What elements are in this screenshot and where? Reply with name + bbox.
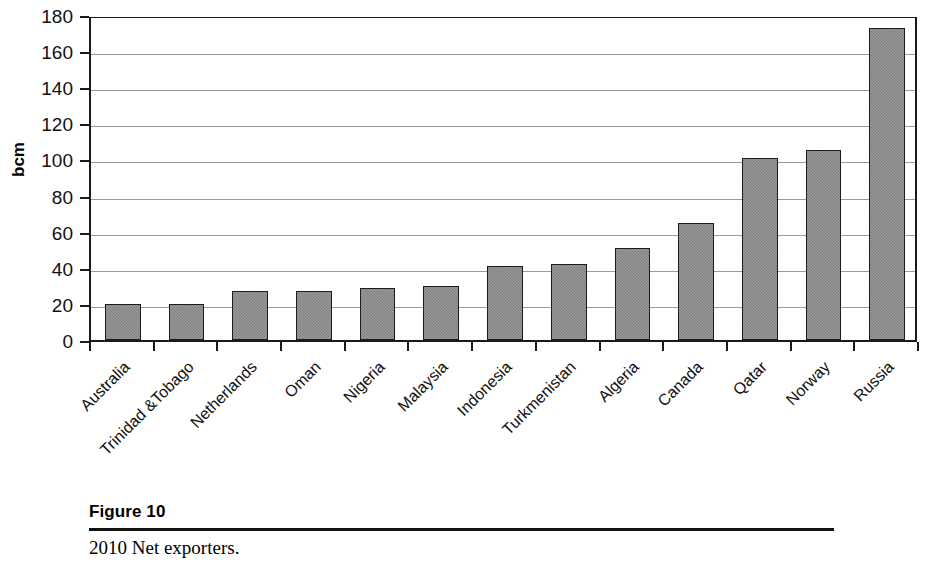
- bar: [169, 304, 205, 340]
- y-axis-tick-label: 40: [3, 260, 73, 279]
- bar: [742, 158, 778, 340]
- y-axis-tick-labels: 180160140120100806040200: [0, 0, 89, 360]
- x-axis-tick-mark: [280, 342, 282, 351]
- x-axis-tick-mark: [662, 342, 664, 351]
- figure-caption-text: 2010 Net exporters.: [89, 531, 837, 559]
- y-axis-tick-label: 160: [3, 43, 73, 62]
- x-axis-tick-mark: [344, 342, 346, 351]
- y-axis-tick-label: 80: [3, 188, 73, 207]
- x-axis-tick-mark: [853, 342, 855, 351]
- bar: [232, 291, 268, 340]
- bar: [678, 223, 714, 340]
- x-axis-tick-mark: [535, 342, 537, 351]
- x-axis-tick-mark: [153, 342, 155, 351]
- x-axis-tick-mark: [471, 342, 473, 351]
- bar: [806, 150, 842, 340]
- plot-area: [89, 17, 917, 342]
- x-axis-tick-mark: [407, 342, 409, 351]
- x-axis-tick-mark: [216, 342, 218, 351]
- y-axis-tick-label: 120: [3, 115, 73, 134]
- figure-caption-block: Figure 10 2010 Net exporters.: [89, 502, 837, 559]
- x-axis-tick-mark: [89, 342, 91, 351]
- y-axis-tick-mark: [80, 305, 89, 307]
- y-axis-tick-mark: [80, 197, 89, 199]
- y-axis-tick-mark: [80, 52, 89, 54]
- y-axis-tick-label: 0: [3, 332, 73, 351]
- y-axis-tick-mark: [80, 233, 89, 235]
- x-axis-tick-mark: [726, 342, 728, 351]
- bar: [296, 291, 332, 340]
- y-axis-tick-label: 100: [3, 151, 73, 170]
- y-axis-tick-mark: [80, 341, 89, 343]
- y-axis-tick-mark: [80, 269, 89, 271]
- bar: [105, 304, 141, 340]
- bar-chart: bcm 180160140120100806040200 AustraliaTr…: [0, 0, 925, 490]
- y-axis-tick-mark: [80, 160, 89, 162]
- y-axis-tick-label: 180: [3, 7, 73, 26]
- y-axis-tick-mark: [80, 88, 89, 90]
- bar: [551, 264, 587, 340]
- bars-layer: [91, 18, 915, 340]
- y-axis-tick-mark: [80, 16, 89, 18]
- bar: [423, 286, 459, 340]
- x-axis-tick-mark: [917, 342, 919, 351]
- x-axis-tick-mark: [599, 342, 601, 351]
- bar: [869, 28, 905, 340]
- y-axis-tick-label: 140: [3, 79, 73, 98]
- x-axis-ticks: [89, 342, 917, 352]
- x-axis-tick-mark: [790, 342, 792, 351]
- bar: [615, 248, 651, 340]
- y-axis-tick-mark: [80, 124, 89, 126]
- figure-container: bcm 180160140120100806040200 AustraliaTr…: [0, 0, 925, 573]
- figure-number: Figure 10: [89, 502, 837, 528]
- y-axis-tick-label: 60: [3, 224, 73, 243]
- bar: [360, 288, 396, 340]
- y-axis-tick-label: 20: [3, 296, 73, 315]
- bar: [487, 266, 523, 340]
- x-axis-tick-labels: AustraliaTrinidad &TobagoNetherlandsOman…: [0, 352, 925, 482]
